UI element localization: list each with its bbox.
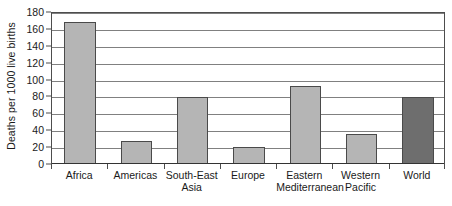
x-axis-category-label: Europe xyxy=(220,170,276,182)
y-axis-title-text: Deaths per 1000 live births xyxy=(5,22,17,150)
x-axis-tick-mark xyxy=(51,164,52,169)
bar xyxy=(402,97,434,164)
y-axis-tick-label: 40 xyxy=(32,125,44,136)
y-axis-tick-label: 120 xyxy=(26,57,44,68)
x-axis-tick-mark xyxy=(332,164,333,169)
bar xyxy=(346,134,378,164)
x-axis-tick-mark xyxy=(107,164,108,169)
x-axis-tick-mark xyxy=(164,164,165,169)
x-axis-category-label: WesternPacific xyxy=(332,170,388,193)
x-axis-category-label: EasternMediterranean xyxy=(276,170,332,193)
y-axis-tick-label: 140 xyxy=(26,41,44,52)
x-axis-tick-mark xyxy=(220,164,221,169)
y-axis-tick-label: 20 xyxy=(32,142,44,153)
y-axis-tick-label: 100 xyxy=(26,74,44,85)
x-axis-tick-mark xyxy=(276,164,277,169)
x-axis-category-label: Americas xyxy=(107,170,163,182)
y-axis-tick-label: 160 xyxy=(26,24,44,35)
bar-chart: Deaths per 1000 live births 020406080100… xyxy=(0,0,452,206)
y-axis-tick-label: 80 xyxy=(32,91,44,102)
x-axis-tick-mark xyxy=(389,164,390,169)
bar xyxy=(64,22,96,164)
bar xyxy=(233,147,265,164)
bar xyxy=(121,141,153,164)
y-axis-tick-label: 180 xyxy=(26,7,44,18)
bar xyxy=(177,97,209,164)
x-axis-category-label: Africa xyxy=(51,170,107,182)
y-axis-tick-label: 0 xyxy=(38,159,44,170)
bar xyxy=(290,86,322,164)
y-axis-tick-label: 60 xyxy=(32,108,44,119)
x-axis-category-label: South-EastAsia xyxy=(164,170,220,193)
x-axis-tick-mark xyxy=(444,164,445,169)
plot-area xyxy=(51,12,445,164)
x-axis-category-labels: AfricaAmericasSouth-EastAsiaEuropeEaster… xyxy=(51,170,445,204)
y-axis-title: Deaths per 1000 live births xyxy=(0,0,22,172)
x-axis-category-label: World xyxy=(389,170,445,182)
bar-series xyxy=(52,13,444,164)
y-axis-tick-labels: 020406080100120140160180 xyxy=(20,12,44,164)
